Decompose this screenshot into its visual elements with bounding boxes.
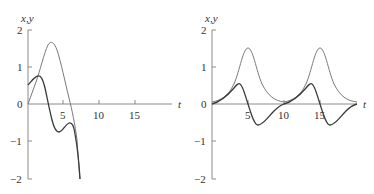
left-x-tick-label: 10 (93, 109, 105, 121)
right-y-tick-label: 1 (201, 61, 207, 73)
right-y-tick-label: 2 (201, 24, 207, 36)
right-series-x-curve (212, 48, 357, 102)
left-y-tick-label: −1 (10, 135, 22, 147)
left-y-tick-label: 2 (17, 24, 23, 36)
left-y-tick-label: 1 (17, 61, 23, 73)
left-panel: x,y 2 1 0 −1 −2 5 10 15 t (10, 12, 182, 185)
right-x-tick-label: 10 (278, 109, 290, 121)
right-y-tick-label: −1 (194, 135, 206, 147)
left-x-tick-label: 15 (129, 109, 141, 121)
left-y-tick-label: −2 (10, 173, 22, 185)
left-x-tick-label: 5 (60, 109, 66, 121)
left-series-y-curve (28, 76, 80, 179)
right-y-tick-label: 0 (201, 98, 207, 110)
right-panel: x,y 2 1 0 −1 −2 5 10 15 t (194, 12, 367, 185)
left-y-axis-label: x,y (20, 12, 34, 24)
left-x-axis-label: t (178, 98, 182, 110)
left-y-tick-label: 0 (17, 98, 23, 110)
right-x-axis-label: t (363, 98, 367, 110)
chart-figure: x,y 2 1 0 −1 −2 5 10 15 t x,y 2 1 (0, 0, 374, 194)
left-series-x-curve (28, 42, 80, 179)
right-y-tick-label: −2 (194, 173, 206, 185)
right-y-axis-label: x,y (204, 12, 218, 24)
